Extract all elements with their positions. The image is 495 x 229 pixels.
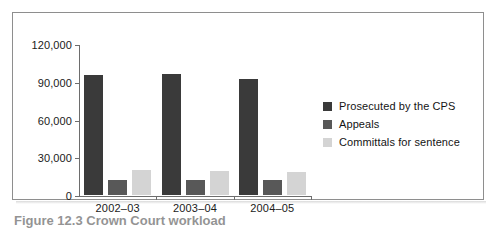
legend-item-label: Appeals [339,118,379,130]
bar [162,74,181,195]
x-axis-tick [311,196,312,200]
bar [186,180,205,195]
legend-swatch-icon [323,120,332,129]
y-axis-tick-label: 30,000 [38,152,72,164]
bar [210,171,229,195]
bar [287,172,306,195]
x-axis-tick [234,196,235,200]
legend-swatch-icon [323,138,332,147]
y-axis-tick-label: 60,000 [38,115,72,127]
legend-item-label: Committals for sentence [339,136,460,148]
x-axis-tick [156,196,157,200]
y-axis-line [79,45,80,197]
x-axis-line [79,196,312,197]
y-axis-tick-label: 0 [66,190,72,202]
y-axis-tick [75,83,79,84]
chart-legend: Prosecuted by the CPSAppealsCommittals f… [323,99,488,153]
legend-item: Prosecuted by the CPS [323,99,488,113]
legend-item: Appeals [323,117,488,131]
y-axis-tick-label: 120,000 [32,39,72,51]
legend-item-label: Prosecuted by the CPS [339,100,455,112]
bar [132,170,151,195]
y-axis-tick [75,121,79,122]
bar [84,75,103,195]
bar [108,180,127,195]
chart-frame: 030,00060,00090,000120,000 2002–032003–0… [12,12,484,200]
y-axis-tick [75,45,79,46]
bar [263,180,282,195]
figure-container: 030,00060,00090,000120,000 2002–032003–0… [0,0,495,229]
figure-caption-text: Figure 12.3 Crown Court workload [14,213,226,228]
plot-area: 030,00060,00090,000120,000 2002–032003–0… [79,45,311,196]
y-axis-tick [75,158,79,159]
figure-caption: Figure 12.3 Crown Court workload [14,213,434,229]
y-axis-tick [75,196,79,197]
legend-item: Committals for sentence [323,135,488,149]
legend-swatch-icon [323,102,332,111]
bar [239,79,258,195]
y-axis-tick-label: 90,000 [38,77,72,89]
